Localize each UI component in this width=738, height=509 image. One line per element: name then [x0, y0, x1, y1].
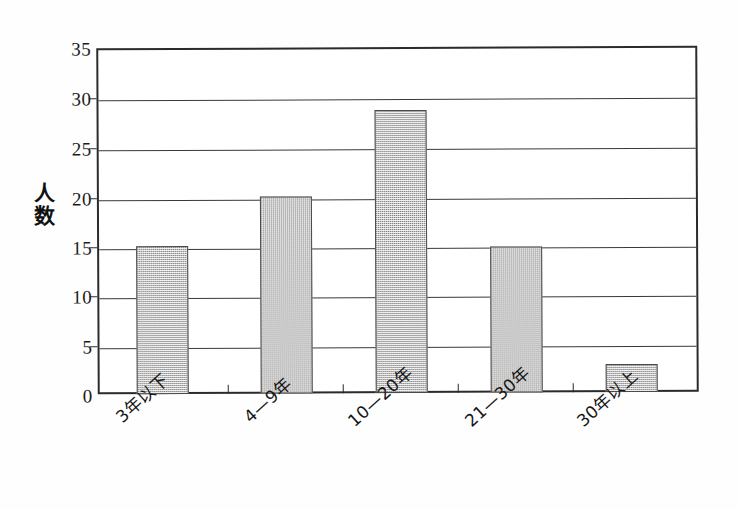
y-axis-title: 人 数 — [31, 182, 57, 228]
x-tick-mark-3 — [458, 384, 459, 393]
chart-page: 35 30 25 20 15 10 5 0 — [0, 0, 738, 509]
x-tick-mark-1 — [228, 385, 229, 394]
chart-canvas: 35 30 25 20 15 10 5 0 — [0, 0, 738, 509]
bar-4-9nian — [260, 196, 313, 393]
y-axis-tick-labels: 35 30 25 20 15 10 5 0 — [47, 1, 93, 509]
plot-area — [96, 46, 699, 395]
y-axis-title-char-2: 数 — [31, 205, 57, 228]
gridline-30 — [98, 98, 695, 102]
x-tick-mark-4 — [573, 383, 574, 392]
bar-3nian-yixia — [136, 246, 189, 394]
bar-10-20nian — [375, 110, 428, 393]
y-axis-title-char-1: 人 — [31, 182, 57, 205]
y-tick-label-0: 0 — [83, 386, 93, 405]
y-tick-label-35: 35 — [71, 39, 91, 58]
x-tick-mark-2 — [343, 384, 344, 393]
